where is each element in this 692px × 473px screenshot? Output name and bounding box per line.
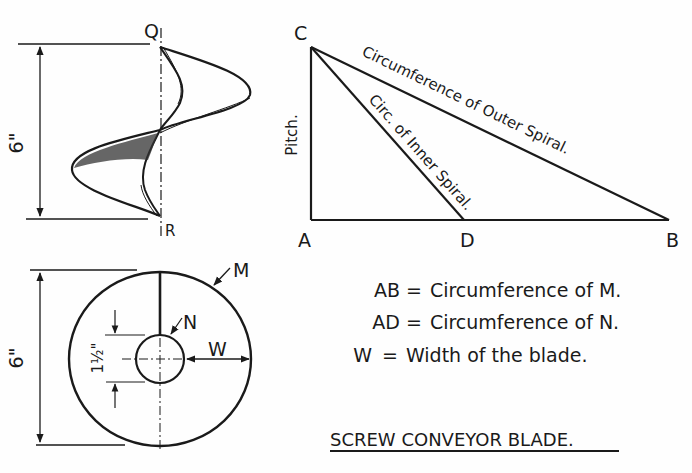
legend-rhs-0-text: Circumference of M. [430, 279, 621, 301]
legend-lhs-0: AB [374, 279, 400, 301]
legend-lhs-2: W [353, 344, 372, 366]
width-label-w: W [208, 338, 227, 360]
development-triangle [311, 47, 669, 220]
legend-rhs-1-text: Circumference of N. [430, 311, 619, 333]
side-view [18, 28, 250, 238]
point-q-label: Q [144, 20, 159, 42]
outer-spiral-label: Circumference of Outer Spiral. [359, 42, 572, 158]
outer-dim-label: 6" [5, 348, 27, 369]
side-height-dim: 6" [5, 133, 27, 154]
pitch-label: Pitch. [283, 114, 301, 155]
legend-eq-2: = [382, 344, 398, 366]
vertex-c: C [294, 22, 307, 44]
legend-lhs-1: AD [372, 311, 400, 333]
screw-conveyor-diagram: Q R 6" C A D B Pitch. Circumference of O… [0, 0, 692, 473]
inner-spiral-label: Circ. of Inner Spiral. [365, 91, 477, 214]
end-view [30, 268, 251, 452]
vertex-d: D [460, 229, 475, 251]
hypotenuse-cb [311, 47, 669, 220]
inner-label-n: N [183, 311, 197, 333]
legend-eq-1: = [406, 311, 422, 333]
diagram-svg: Q R 6" C A D B Pitch. Circumference of O… [0, 0, 692, 473]
vertex-b: B [666, 229, 679, 251]
point-r-label: R [165, 222, 175, 240]
hypotenuse-cd [311, 47, 464, 220]
legend-rhs-2-text: Width of the blade. [406, 344, 588, 366]
legend-eq-0: = [406, 279, 422, 301]
vertex-a: A [298, 229, 311, 251]
inner-dim-label: 1½" [89, 343, 107, 374]
outer-label-m: M [233, 259, 249, 281]
diagram-title: SCREW CONVEYOR BLADE. [330, 429, 574, 450]
